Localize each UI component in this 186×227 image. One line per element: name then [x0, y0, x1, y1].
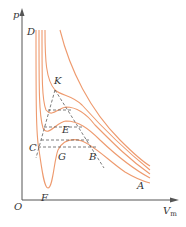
- x-axis-arrow-icon: [170, 198, 179, 203]
- isotherm-critical: [45, 30, 150, 170]
- point-K: K: [53, 75, 62, 86]
- point-E: E: [61, 124, 70, 135]
- point-G: G: [58, 151, 66, 162]
- dome-left-branch: [36, 90, 55, 158]
- origin-label: O: [14, 201, 22, 212]
- pv-isotherm-diagram: p Vm O D K E C G B F A: [0, 0, 186, 227]
- isotherm-high-temp: [60, 30, 150, 166]
- point-D: D: [26, 26, 35, 37]
- y-axis-arrow-icon: [20, 8, 25, 16]
- isotherm-low-temp: [36, 30, 150, 188]
- labels: p Vm O D K E C G B F A: [13, 9, 177, 218]
- point-F: F: [40, 192, 49, 203]
- axes: [20, 8, 180, 203]
- point-B: B: [88, 151, 96, 162]
- isotherms: [36, 30, 150, 188]
- point-A: A: [136, 180, 144, 191]
- y-axis-label: p: [13, 9, 20, 20]
- point-C: C: [29, 142, 37, 153]
- x-axis-label: Vm: [163, 205, 177, 218]
